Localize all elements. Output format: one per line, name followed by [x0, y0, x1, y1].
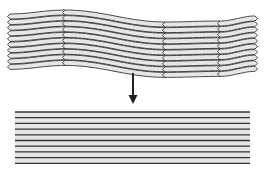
layer-segment: [163, 21, 223, 27]
layer-segment: [163, 27, 223, 33]
layer-segment: [163, 49, 223, 55]
layer-segment: [163, 55, 223, 61]
layer-segment: [163, 71, 223, 77]
diagram-canvas: [0, 0, 268, 169]
down-arrow-icon: [129, 73, 138, 104]
layer-segment: [163, 38, 223, 44]
layer-segment: [163, 43, 223, 49]
layer-segment: [163, 66, 223, 72]
layer-segment: [163, 60, 223, 66]
flat-layer-stack: [15, 112, 250, 163]
wavy-layer-stack: [8, 10, 258, 77]
layer-segment: [163, 32, 223, 38]
